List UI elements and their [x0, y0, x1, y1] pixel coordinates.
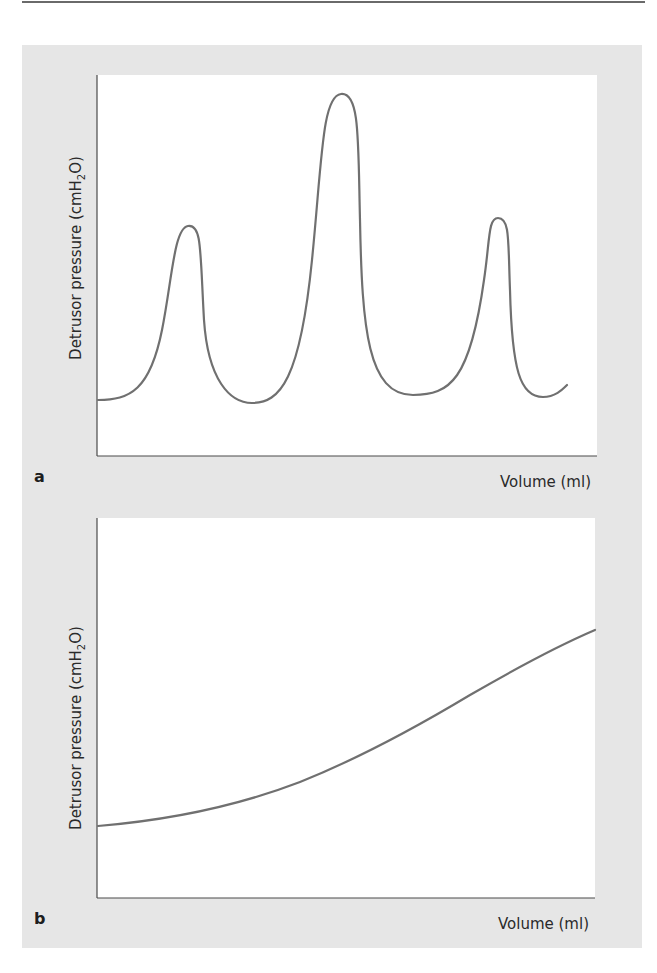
chart-a: a Volume (ml) Detrusor pressure (cmH2O)	[34, 75, 597, 491]
panel-label-a: a	[34, 467, 45, 486]
x-axis-label-b: Volume (ml)	[498, 915, 589, 933]
chart-b: b Volume (ml) Detrusor pressure (cmH2O)	[34, 518, 595, 933]
y-axis-label-b: Detrusor pressure (cmH2O)	[67, 626, 87, 830]
figure-svg: a Volume (ml) Detrusor pressure (cmH2O) …	[0, 0, 657, 973]
x-axis-label-a: Volume (ml)	[500, 473, 591, 491]
plot-area-b	[97, 518, 595, 898]
panel-label-b: b	[34, 909, 45, 928]
y-axis-label-a: Detrusor pressure (cmH2O)	[67, 156, 87, 360]
